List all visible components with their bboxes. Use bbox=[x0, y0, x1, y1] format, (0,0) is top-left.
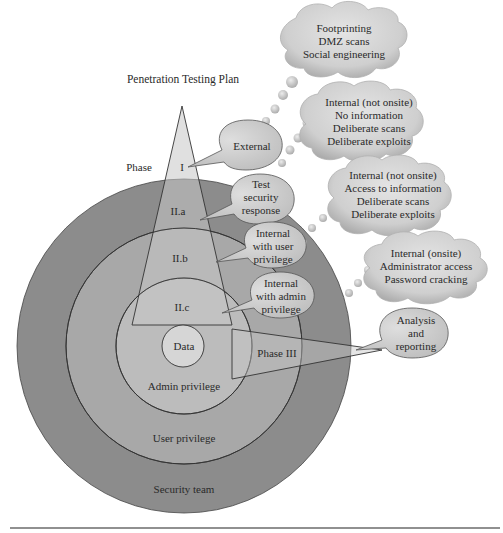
cloud-phase-2c-line-3: Password cracking bbox=[385, 273, 468, 285]
cloud-phase-1-line-1: Footprinting bbox=[316, 22, 372, 34]
cloud-phase-2b: Internal (not onsite) Access to informat… bbox=[328, 155, 451, 236]
cloud-phase-2b-line-3: Deliberate scans bbox=[357, 195, 429, 207]
bubble-phase-2a-line-1: Test bbox=[252, 178, 270, 190]
bubble-phase-3-line-2: and bbox=[408, 327, 424, 339]
admin-privilege-label: Admin privilege bbox=[148, 380, 221, 392]
cloud-phase-1-line-3: Social engineering bbox=[303, 48, 386, 60]
cloud-phase-1: Footprinting DMZ scans Social engineerin… bbox=[280, 1, 407, 77]
cloud-phase-2a: Internal (not onsite) No information Del… bbox=[300, 81, 423, 162]
bubble-phase-2a-line-3: response bbox=[242, 204, 281, 216]
user-privilege-label: User privilege bbox=[153, 432, 216, 444]
cloud-phase-2a-line-2: No information bbox=[335, 109, 404, 121]
bubble-phase-2c-line-3: privilege bbox=[261, 303, 300, 315]
cloud-phase-2c-line-1: Internal (onsite) bbox=[391, 247, 462, 260]
bubble-phase-1-line-1: External bbox=[233, 140, 270, 152]
data-label: Data bbox=[174, 340, 195, 352]
bubble-phase-2b-line-2: with user bbox=[253, 240, 294, 252]
cloud-phase-2b-line-4: Deliberate exploits bbox=[351, 208, 434, 220]
cloud-phase-2a-line-3: Deliberate scans bbox=[333, 122, 405, 134]
phase-1-label: I bbox=[180, 161, 184, 173]
bubble-phase-3-line-3: reporting bbox=[396, 340, 437, 352]
diagram-canvas: Penetration Testing Plan Data Admin priv… bbox=[0, 0, 503, 533]
phase-label: Phase bbox=[126, 161, 152, 173]
security-team-label: Security team bbox=[154, 483, 215, 495]
bubble-phase-2c-line-2: with admin bbox=[256, 290, 306, 302]
phase-2a-label: II.a bbox=[171, 205, 186, 217]
phase-2b-label: II.b bbox=[172, 252, 188, 264]
cloud-phase-2a-line-4: Deliberate exploits bbox=[327, 135, 410, 147]
bubble-phase-3-line-1: Analysis bbox=[397, 314, 436, 326]
bubble-phase-2b-line-3: privilege bbox=[253, 253, 292, 265]
cloud-phase-1-line-2: DMZ scans bbox=[318, 35, 369, 47]
bubble-phase-1: External bbox=[188, 120, 282, 170]
cloud-phase-2b-line-1: Internal (not onsite) bbox=[349, 169, 437, 182]
diagram-title: Penetration Testing Plan bbox=[127, 73, 239, 86]
cloud-phase-2a-line-1: Internal (not onsite) bbox=[325, 96, 413, 109]
cloud-phase-2c: Internal (onsite) Administrator access P… bbox=[364, 231, 487, 304]
bubble-phase-2b-line-1: Internal bbox=[256, 227, 290, 239]
phase-3-label: Phase III bbox=[257, 347, 297, 359]
bubble-phase-2c-line-1: Internal bbox=[264, 277, 298, 289]
cloud-phase-2c-line-2: Administrator access bbox=[380, 260, 473, 272]
phase-2c-label: II.c bbox=[175, 301, 190, 313]
cloud-phase-2b-line-2: Access to information bbox=[344, 182, 442, 194]
bubble-phase-2a-line-2: security bbox=[244, 191, 279, 203]
